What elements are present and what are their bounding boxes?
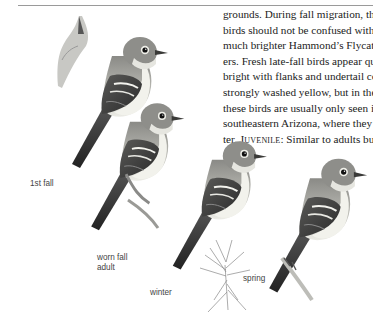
bird-spring bbox=[269, 159, 367, 293]
bird-winter bbox=[173, 141, 267, 269]
back-view-sketch bbox=[57, 16, 88, 88]
flycatcher-illustrations bbox=[0, 0, 373, 323]
label-worn-fall-adult-line2: adult bbox=[97, 263, 115, 273]
label-worn-fall-adult-line1: worn fall bbox=[97, 253, 128, 263]
label-winter: winter bbox=[150, 288, 172, 298]
label-1st-fall: 1st fall bbox=[30, 179, 54, 189]
label-spring: spring bbox=[243, 274, 265, 284]
